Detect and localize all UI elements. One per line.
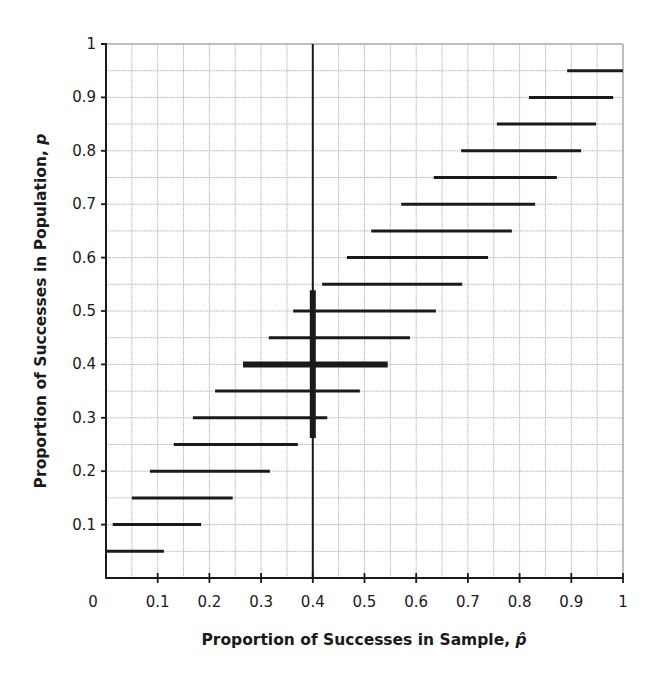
- x-tick-label: 0.6: [404, 593, 428, 611]
- y-tick-label: 0.8: [72, 142, 96, 160]
- y-tick-label: 0.4: [72, 355, 96, 373]
- y-tick-label: 0.6: [72, 249, 96, 267]
- y-axis-title: Proportion of Successes in Population, p: [32, 134, 50, 489]
- y-tick-label: 0.7: [72, 195, 96, 213]
- x-tick-label: 0.7: [456, 593, 480, 611]
- y-tick-label: 1: [86, 35, 96, 53]
- x-tick-label: 0.4: [301, 593, 325, 611]
- x-tick-label: 0.8: [508, 593, 532, 611]
- x-tick-label: 0.5: [353, 593, 377, 611]
- x-tick-label: 0.3: [249, 593, 273, 611]
- x-tick-label: 0: [88, 593, 98, 611]
- y-tick-label: 0.5: [72, 302, 96, 320]
- x-tick-label: 1: [618, 593, 628, 611]
- y-tick-label: 0.2: [72, 462, 96, 480]
- x-tick-label: 0.2: [197, 593, 221, 611]
- x-tick-label: 0.1: [146, 593, 170, 611]
- y-tick-label: 0.3: [72, 409, 96, 427]
- confidence-interval-chart: 00.10.20.30.40.50.60.70.80.91 0.10.20.30…: [0, 0, 658, 675]
- y-tick-label: 0.9: [72, 88, 96, 106]
- x-axis-title: Proportion of Successes in Sample, p̂: [201, 631, 526, 649]
- y-tick-label: 0.1: [72, 516, 96, 534]
- x-tick-label: 0.9: [559, 593, 583, 611]
